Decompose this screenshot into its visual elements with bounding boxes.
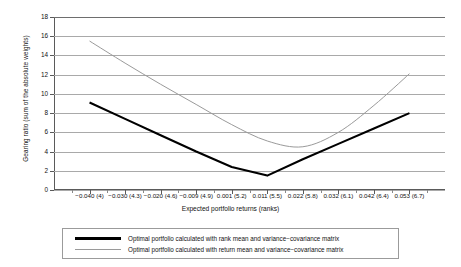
chart-legend: Optimal portfolio calculated with rank m… [62,228,399,259]
y-tick-label: 8 [32,109,48,116]
y-tick-label: 2 [32,167,48,174]
y-tick-label: 16 [32,32,48,39]
x-tick-label: 0.042 (6.4) [359,192,389,199]
x-tick-minor [321,190,322,193]
x-tick-minor [285,190,286,193]
chart-figure: Gearing ratio (sum of the absolute weigh… [0,0,461,267]
x-tick-minor [72,190,73,193]
y-tick [50,190,54,191]
y-tick-label: 12 [32,71,48,78]
y-tick-label: 18 [32,13,48,20]
y-tick-label: 6 [32,128,48,135]
x-tick-minor [356,190,357,193]
y-axis-title: Gearing ratio (sum of the absolute weigh… [22,11,29,186]
series-lines [54,17,445,190]
x-tick-label: −0.040 (4) [75,192,103,199]
legend-swatch-thick-black-icon [75,237,121,239]
x-tick-label: 0.022 (5.8) [288,192,318,199]
y-tick-label: 14 [32,51,48,58]
y-tick-label: 0 [32,186,48,193]
legend-item-rank-mean: Optimal portfolio calculated with rank m… [63,233,398,244]
x-tick-label: −0.009 (4.9) [179,192,213,199]
x-tick-label: 0.032 (6.1) [323,192,353,199]
x-tick-minor [250,190,251,193]
x-tick-label: −0.030 (4.3) [108,192,142,199]
legend-item-return-mean: Optimal portfolio calculated with return… [63,244,398,255]
series-line-return-mean [90,41,410,147]
series-line-rank-mean [90,103,410,176]
x-tick-label: 0.001 (5.2) [217,192,247,199]
x-tick-label: 0.011 (5.5) [253,192,282,199]
x-tick-label: 0.053 (6.7) [394,192,424,199]
legend-label: Optimal portfolio calculated with return… [121,246,343,253]
x-tick-label: −0.020 (4.6) [144,192,178,199]
legend-label: Optimal portfolio calculated with rank m… [121,235,339,242]
x-tick-minor [214,190,215,193]
x-tick-minor [427,190,428,193]
x-axis-title: Expected portfolio returns (ranks) [0,205,461,212]
y-tick-label: 4 [32,148,48,155]
x-tick-minor [392,190,393,193]
plot-area: 024681012141618 [54,17,445,190]
y-tick-label: 10 [32,90,48,97]
legend-swatch-thin-gray-icon [75,249,121,250]
